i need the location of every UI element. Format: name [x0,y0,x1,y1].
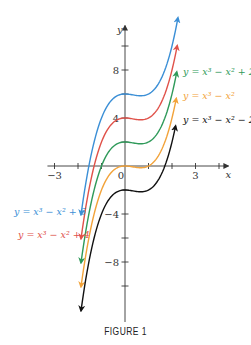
figure-caption: FIGURE 1 [19,326,232,337]
curves [81,18,178,310]
cubic-curves-plot: −30384−4−8xy y = x³ − x² + 6y = x³ − x² … [0,0,251,345]
y-tick-label: −8 [104,257,119,268]
curve-label: y = x³ − x² + 4 [17,229,90,240]
curve-label: y = x³ − x² [182,90,235,101]
curve-labels: y = x³ − x² + 6y = x³ − x² + 4y = x³ − x… [13,66,251,240]
curve-c0 [81,99,176,287]
curve-c-2 [81,126,175,310]
x-axis-label: x [225,169,231,180]
x-tick-label: −3 [47,170,62,181]
figure: −30384−4−8xy y = x³ − x² + 6y = x³ − x² … [0,0,251,345]
curve-label: y = x³ − x² + 2 [182,66,251,77]
y-axis-label: y [116,24,123,35]
x-tick-label: 0 [118,170,124,181]
curve-label: y = x³ − x² − 2 [182,114,251,125]
curve-label: y = x³ − x² + 6 [13,206,86,217]
x-tick-label: 3 [192,170,198,181]
y-tick-label: −4 [104,209,119,220]
y-tick-label: 8 [113,65,119,76]
